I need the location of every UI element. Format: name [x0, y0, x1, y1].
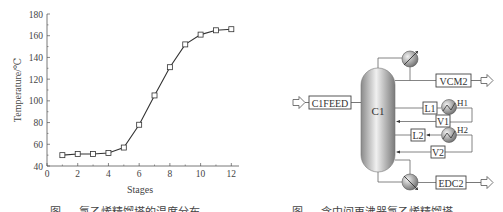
l2-label: L2 [412, 130, 423, 141]
feed-arrow-icon [293, 97, 305, 109]
x-tick-label: 8 [168, 169, 173, 179]
x-tick-label: 4 [106, 169, 111, 179]
data-point-marker [183, 42, 188, 47]
x-tick-label: 10 [196, 169, 206, 179]
distillation-column-diagram: C1 C1FEED VCM2 L1 [250, 0, 503, 212]
column-c1: C1 [361, 68, 395, 172]
y-tick-label: 80 [34, 118, 44, 128]
y-axis-label: Temperature/℃ [12, 58, 23, 122]
chart-canvas: 024681012406080100120140160180 Temperatu… [0, 0, 250, 212]
x-tick-label: 2 [75, 169, 80, 179]
y-tick-label: 120 [29, 75, 44, 85]
y-tick-label: 100 [29, 96, 44, 106]
intermediate-reboiler-2: L2 H2 V2 [395, 125, 472, 158]
data-point-marker [198, 32, 203, 37]
condenser: VCM2 [378, 51, 493, 87]
data-point-marker [106, 150, 111, 155]
right-figure-caption: 图 — 含中间再沸器氯乙烯精馏塔 [292, 203, 453, 212]
y-tick-label: 180 [29, 10, 44, 20]
chart-series [60, 27, 234, 158]
x-tick-label: 12 [227, 169, 237, 179]
y-tick-label: 160 [29, 31, 44, 41]
reboiler: EDC2 [378, 160, 493, 190]
column-label: C1 [372, 105, 385, 117]
data-point-marker [121, 145, 126, 150]
data-point-marker [91, 152, 96, 157]
intermediate-reboiler-1: L1 H1 V1 [395, 98, 472, 127]
data-point-marker [75, 152, 80, 157]
x-axis-label: Stages [127, 184, 153, 195]
y-tick-label: 40 [34, 162, 44, 172]
vcm2-outlet-arrow-icon [481, 75, 493, 87]
l1-label: L1 [424, 103, 435, 114]
edc2-outlet-arrow-icon [481, 177, 493, 189]
feed-stream: C1FEED [293, 96, 361, 109]
data-point-marker [137, 122, 142, 127]
feed-label: C1FEED [312, 98, 349, 109]
edc2-label: EDC2 [439, 178, 464, 189]
v1-label: V1 [437, 116, 449, 127]
data-point-marker [229, 27, 234, 32]
data-point-marker [213, 28, 218, 33]
v2-label: V2 [432, 147, 444, 158]
left-figure-caption: 图 — 氯乙烯精馏塔的温度分布 [50, 203, 200, 212]
h2-label: H2 [457, 125, 468, 135]
y-tick-label: 140 [29, 53, 44, 63]
vcm2-label: VCM2 [440, 76, 468, 87]
data-point-marker [152, 93, 157, 98]
y-tick-label: 60 [34, 140, 44, 150]
process-flow-diagram: C1 C1FEED VCM2 L1 [250, 0, 503, 212]
temperature-profile-chart: 024681012406080100120140160180 Temperatu… [0, 0, 250, 212]
temperature-line [62, 29, 231, 155]
data-point-marker [60, 153, 65, 158]
h1-label: H1 [457, 98, 468, 108]
x-tick-label: 0 [45, 169, 50, 179]
data-point-marker [167, 65, 172, 70]
x-tick-label: 6 [137, 169, 142, 179]
